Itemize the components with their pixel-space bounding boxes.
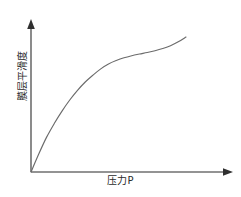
x-axis-label: 压力P: [0, 176, 241, 186]
x-axis-arrowhead: [223, 168, 233, 176]
line-chart-plot: [0, 0, 241, 197]
data-curve: [31, 37, 186, 172]
y-axis-label: 膜层平滑度: [18, 26, 28, 126]
figure-root: 压力P 膜层平滑度: [0, 0, 241, 197]
y-axis-arrowhead: [27, 19, 35, 29]
